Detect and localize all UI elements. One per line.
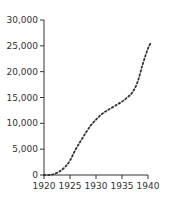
line-chart: 05,00010,00015,00020,00025,00030,000 192… [0,0,169,208]
y-tick-label: 0 [32,170,38,180]
x-axis: 19201925193019351940 [33,175,160,191]
y-tick-label: 20,000 [7,67,39,77]
x-tick-label: 1925 [59,181,82,191]
y-axis: 05,00010,00015,00020,00025,00030,000 [7,15,45,180]
x-tick-label: 1940 [137,181,160,191]
y-tick-label: 25,000 [7,41,39,51]
x-tick-label: 1920 [33,181,56,191]
y-tick-label: 30,000 [7,15,39,25]
x-tick-label: 1930 [85,181,108,191]
y-tick-label: 10,000 [7,118,39,128]
data-line [44,43,151,175]
y-tick-label: 5,000 [12,144,38,154]
y-tick-label: 15,000 [7,93,39,103]
x-tick-label: 1935 [111,181,134,191]
